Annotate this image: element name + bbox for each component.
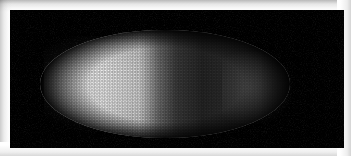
embryo-body [40,30,290,138]
microscopy-image-panel [10,10,344,148]
micrograph-figure [0,0,351,156]
dorsal-ventral-falloff-overlay [40,30,290,138]
